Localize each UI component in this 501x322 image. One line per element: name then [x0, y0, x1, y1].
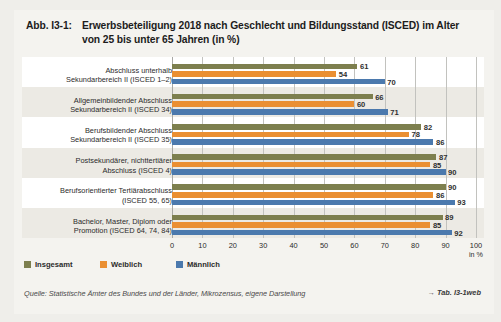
bar-value-label: 54 — [339, 71, 347, 79]
plot-area: 615470666071827886878590908693898592 — [172, 57, 476, 238]
bar-weiblich — [172, 162, 430, 168]
category-label: Berufsbildender AbschlussSekundarbereich… — [22, 126, 172, 145]
bar-weiblich — [172, 192, 433, 198]
category-label-line: Promotion (ISCED 64, 74, 84) — [22, 226, 172, 235]
bar-weiblich — [172, 132, 409, 138]
bar-insgesamt — [172, 154, 436, 160]
figure-title-line1: Erwerbsbeteiligung 2018 nach Geschlecht … — [82, 20, 459, 31]
category-label-line: Sekundarbereich II (ISCED 1–2) — [22, 75, 172, 84]
legend-item-weiblich[interactable]: Weiblich — [100, 260, 142, 269]
bar-insgesamt — [172, 184, 446, 190]
x-axis: 0102030405060708090100in % — [172, 238, 482, 260]
legend-label: Insgesamt — [35, 260, 73, 269]
bar-chart: Abschluss unterhalbSekundarbereich II (I… — [22, 57, 484, 245]
bar-insgesamt — [172, 124, 421, 130]
bar-value-label: 61 — [360, 63, 368, 71]
bar-männlich — [172, 169, 446, 175]
legend-item-insgesamt[interactable]: Insgesamt — [24, 260, 73, 269]
category-label-line: (ISCED 55, 65) — [22, 196, 172, 205]
figure-title-line2: von 25 bis unter 65 Jahren (in %) — [82, 34, 240, 45]
bar-weiblich — [172, 101, 354, 107]
category-label-line: Berufsorientierter Tertiärabschluss — [22, 186, 172, 195]
gridline — [385, 57, 386, 238]
bar-value-label: 86 — [436, 139, 444, 147]
bar-männlich — [172, 109, 388, 115]
bar-männlich — [172, 139, 433, 145]
bar-männlich — [172, 79, 385, 85]
bar-value-label: 89 — [445, 214, 453, 222]
bar-value-label: 85 — [433, 162, 441, 170]
bar-value-label: 71 — [390, 109, 398, 117]
x-tick-label: 70 — [381, 241, 389, 250]
x-tick-label: 60 — [350, 241, 358, 250]
figure-number: Abb. I3-1: — [26, 19, 82, 34]
bar-value-label: 85 — [433, 222, 441, 230]
source-note: Quelle: Statistische Ämter des Bundes un… — [24, 289, 305, 298]
category-label-line: Abschluss (ISCED 4) — [22, 166, 172, 175]
bar-weiblich — [172, 71, 336, 77]
x-tick-label: 10 — [198, 241, 206, 250]
category-label: Berufsorientierter Tertiärabschluss(ISCE… — [22, 186, 172, 205]
category-label: Postsekundärer, nichttertiärerAbschluss … — [22, 156, 172, 175]
bar-value-label: 90 — [448, 184, 456, 192]
bar-value-label: 92 — [454, 230, 462, 238]
bar-männlich — [172, 230, 452, 236]
bar-value-label: 66 — [375, 94, 383, 102]
bar-insgesamt — [172, 215, 443, 221]
category-label-line: Abschluss unterhalb — [22, 66, 172, 75]
category-label: Allgemeinbildender AbschlussSekundarbere… — [22, 96, 172, 115]
category-label-line: Sekundarbereich II (ISCED 35) — [22, 135, 172, 144]
bar-value-label: 86 — [436, 192, 444, 200]
figure-page: Abb. I3-1:Erwerbsbeteiligung 2018 nach G… — [0, 0, 501, 322]
bar-value-label: 82 — [424, 124, 432, 132]
bar-value-label: 90 — [448, 169, 456, 177]
bar-value-label: 78 — [412, 131, 420, 139]
category-label-line: Berufsbildender Abschluss — [22, 126, 172, 135]
bar-value-label: 93 — [457, 199, 465, 207]
bar-value-label: 70 — [387, 79, 395, 87]
gridline — [415, 57, 416, 238]
bar-insgesamt — [172, 94, 373, 100]
legend-label: Weiblich — [111, 260, 142, 269]
x-tick-label: 30 — [259, 241, 267, 250]
category-label-line: Postsekundärer, nichttertiärer — [22, 156, 172, 165]
gridline — [446, 57, 447, 238]
x-tick-label: 40 — [289, 241, 297, 250]
category-label-line: Allgemeinbildender Abschluss — [22, 96, 172, 105]
category-label-line: Sekundarbereich II (ISCED 34) — [22, 105, 172, 114]
x-tick-label: 20 — [229, 241, 237, 250]
gridline — [476, 57, 477, 238]
figure-title: Abb. I3-1:Erwerbsbeteiligung 2018 nach G… — [26, 19, 481, 34]
x-tick-label: 50 — [320, 241, 328, 250]
x-tick-label: 90 — [441, 241, 449, 250]
category-label: Abschluss unterhalbSekundarbereich II (I… — [22, 66, 172, 85]
legend-swatch — [176, 261, 183, 268]
bar-insgesamt — [172, 64, 357, 70]
bar-weiblich — [172, 222, 430, 228]
legend-label: Männlich — [187, 260, 220, 269]
legend-item-männlich[interactable]: Männlich — [176, 260, 220, 269]
category-label: Bachelor, Master, Diplom oderPromotion (… — [22, 217, 172, 236]
table-reference-link[interactable]: → Tab. I3-1web — [427, 288, 481, 297]
legend-swatch — [100, 261, 107, 268]
bar-value-label: 60 — [357, 101, 365, 109]
x-tick-label: 80 — [411, 241, 419, 250]
x-tick-label: 0 — [170, 241, 174, 250]
x-axis-unit-label: in % — [469, 250, 483, 259]
category-label-line: Bachelor, Master, Diplom oder — [22, 217, 172, 226]
legend-swatch — [24, 261, 31, 268]
bar-männlich — [172, 200, 455, 206]
